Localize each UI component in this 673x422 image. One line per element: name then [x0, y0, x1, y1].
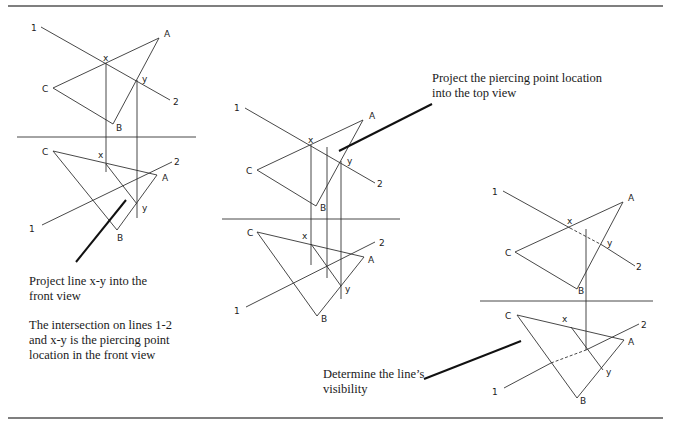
caption-line: Determine the line’s — [323, 367, 424, 382]
label-y: y — [347, 156, 353, 166]
leader-line-2 — [339, 104, 432, 151]
caption-line: and x-y is the piercing point — [29, 333, 172, 348]
label-2: 2 — [636, 262, 642, 272]
label-a-front: A — [162, 173, 169, 183]
caption-project-piercing-point: Project the piercing point location into… — [432, 71, 602, 101]
label-a-front: A — [368, 255, 375, 265]
label-1-front: 1 — [492, 387, 498, 397]
plane-abc-front — [517, 315, 624, 398]
label-c-front: C — [42, 147, 48, 157]
label-a: A — [369, 111, 376, 121]
label-1-front: 1 — [29, 224, 35, 234]
label-y-front: y — [606, 367, 612, 377]
caption-intersection: The intersection on lines 1-2 and x-y is… — [29, 318, 172, 363]
label-x-front: x — [302, 231, 308, 241]
label-b: B — [578, 286, 584, 296]
caption-project-line: Project line x-y into the front view — [29, 274, 147, 304]
panel-3 — [424, 191, 653, 398]
leader-line-3 — [424, 341, 521, 379]
label-1: 1 — [234, 103, 240, 113]
label-2-front: 2 — [379, 238, 385, 248]
line-1-2-front — [246, 242, 375, 307]
caption-line: The intersection on lines 1-2 — [29, 318, 172, 333]
label-1: 1 — [492, 187, 498, 197]
label-x: x — [567, 216, 573, 226]
line-1-2-front-hidden — [551, 350, 586, 363]
label-c-front: C — [247, 228, 253, 238]
label-a: A — [628, 193, 635, 203]
line-1-2-top — [245, 108, 375, 183]
label-y: y — [607, 238, 613, 248]
label-b: B — [116, 123, 122, 133]
label-y-front: y — [142, 203, 148, 213]
label-c: C — [505, 248, 511, 258]
label-x: x — [103, 53, 109, 63]
label-a: A — [164, 29, 171, 39]
label-b-front: B — [580, 396, 586, 406]
label-2: 2 — [377, 179, 383, 189]
line-1-2-front-visible — [504, 363, 551, 388]
line-x-y-front — [106, 164, 137, 204]
line-1-2-top-visible-2 — [602, 245, 635, 266]
label-c: C — [246, 166, 252, 176]
label-2-front: 2 — [641, 320, 647, 330]
plane-abc-front — [53, 151, 157, 230]
caption-line: location in the front view — [29, 348, 172, 363]
panel-2 — [222, 104, 432, 316]
line-1-2-top-visible — [503, 191, 570, 228]
label-y: y — [142, 74, 148, 84]
leader-line-1 — [76, 200, 126, 262]
line-1-2-front — [42, 162, 172, 225]
caption-line: visibility — [323, 382, 424, 397]
label-y-front: y — [345, 284, 351, 294]
label-1-front: 1 — [234, 306, 240, 316]
label-b-front: B — [117, 233, 123, 243]
label-x-front: x — [562, 314, 568, 324]
label-x-front: x — [98, 150, 104, 160]
label-b-front: B — [321, 314, 327, 324]
label-c-front: C — [505, 311, 511, 321]
line-x-y-front — [571, 327, 603, 370]
caption-line: into the top view — [432, 86, 602, 101]
label-2: 2 — [173, 97, 179, 107]
caption-line: front view — [29, 289, 147, 304]
label-2-front: 2 — [174, 157, 180, 167]
label-b: B — [320, 203, 326, 213]
caption-visibility: Determine the line’s visibility — [323, 367, 424, 397]
label-x: x — [308, 135, 314, 145]
caption-line: Project line x-y into the — [29, 274, 147, 289]
label-a-front: A — [628, 337, 635, 347]
label-1: 1 — [31, 23, 37, 33]
label-c: C — [42, 84, 48, 94]
caption-line: Project the piercing point location — [432, 71, 602, 86]
